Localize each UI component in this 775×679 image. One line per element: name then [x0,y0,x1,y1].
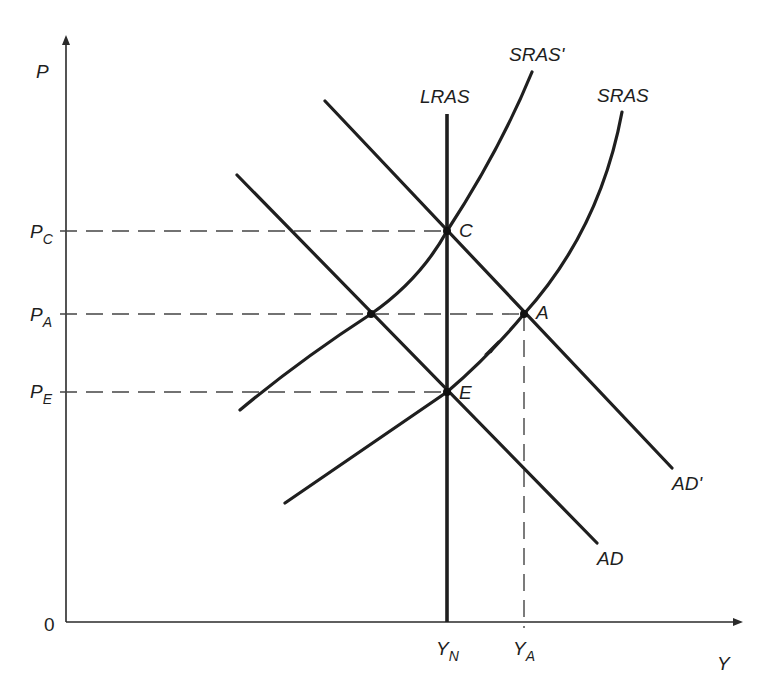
point-c-dot [443,227,451,235]
sras-label: SRAS [597,85,649,106]
point-a-label: A [535,302,549,323]
ad-prime-line [325,101,672,468]
intersection-dot [367,310,375,318]
sras-curve [285,112,622,503]
movement-arrow-icon [487,341,499,353]
ad-prime-label: AD' [671,473,703,494]
pc-label: PC [30,221,54,247]
sras-prime-curve [240,72,532,410]
ya-label: YA [513,638,535,664]
y-axis-label: P [36,61,49,82]
ad-as-diagram: P Y 0 PC PA PE YN YA LRAS SRAS' SRAS AD … [0,0,775,679]
guide-lines [60,231,524,628]
x-axis-label: Y [717,653,731,674]
ad-label: AD [596,548,624,569]
point-a-dot [520,310,528,318]
ad-line [237,175,597,543]
pa-label: PA [30,304,52,330]
point-e-label: E [459,382,472,403]
lras-label: LRAS [420,86,470,107]
sras-prime-label: SRAS' [509,44,566,65]
yn-label: YN [436,638,460,664]
pe-label: PE [30,381,53,407]
point-e-dot [443,388,451,396]
origin-label: 0 [44,614,55,635]
curves [237,72,672,622]
axes [66,40,738,622]
point-c-label: C [459,220,473,241]
